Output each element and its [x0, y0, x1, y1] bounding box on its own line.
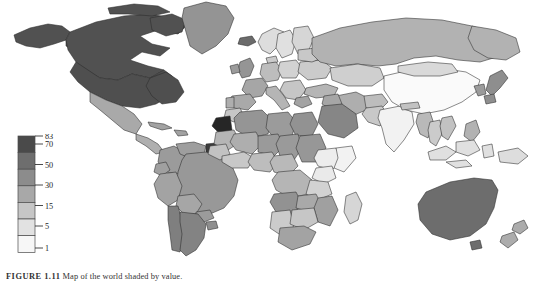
figure-caption-text: Map of the world shaded by value.	[63, 272, 183, 281]
legend-band-1	[18, 236, 35, 253]
legend-label-30: 30	[45, 181, 53, 190]
region-portugal	[226, 97, 234, 108]
region-japan-south	[484, 94, 496, 104]
figure-caption-label: FIGURE 1.11	[6, 272, 60, 281]
figure-caption: FIGURE 1.11 Map of the world shaded by v…	[6, 272, 526, 281]
legend-band-50	[18, 169, 35, 186]
legend-band-83	[18, 136, 35, 153]
legend-band-30	[18, 186, 35, 203]
region-ireland	[230, 64, 240, 74]
region-indonesia-sulawesi	[482, 144, 494, 158]
legend-label-15: 15	[45, 202, 53, 211]
legend-band-5	[18, 219, 35, 236]
region-egypt	[290, 112, 318, 136]
legend-band-15	[18, 202, 35, 219]
legend-label-70: 70	[45, 140, 53, 149]
map-svg	[0, 0, 534, 262]
legend-label-5: 5	[45, 222, 49, 231]
legend-label-50: 50	[45, 161, 53, 170]
legend-label-1: 1	[45, 244, 49, 253]
region-tasmania	[470, 240, 482, 250]
legend-svg: 83 70 50 30 15 5 1	[17, 134, 73, 256]
map-legend: 83 70 50 30 15 5 1	[17, 134, 73, 256]
world-choropleth-map	[0, 0, 534, 262]
legend-band-70	[18, 153, 35, 170]
figure-container: 83 70 50 30 15 5 1 FIGURE 1.11 Map of th…	[0, 0, 534, 286]
